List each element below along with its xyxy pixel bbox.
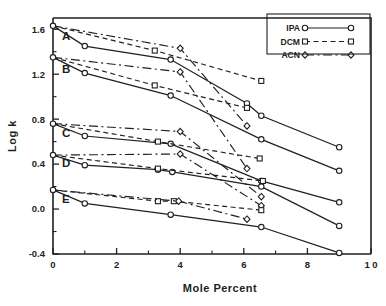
legend-item-dcm: DCM [280, 37, 353, 47]
series-dcm [53, 57, 249, 110]
group-label-d: D [62, 157, 70, 169]
series-line [53, 57, 247, 108]
chart-container: 024681 0 -0.40.00.40.81.21.6 ABCDE IPADC… [0, 0, 386, 306]
legend-label: DCM [280, 37, 300, 47]
circle-data-point [337, 168, 342, 173]
x-tick-label: 0 [50, 259, 55, 270]
y-axis-ticks [53, 29, 59, 254]
x-tick-label: 4 [178, 259, 184, 270]
y-tick-label: -0.4 [29, 248, 46, 259]
circle-data-point [50, 55, 55, 60]
square-data-point [152, 83, 157, 88]
circle-data-point [50, 152, 55, 157]
circle-data-point [168, 57, 173, 62]
group-label-c: C [62, 127, 70, 139]
diamond-data-point [302, 52, 308, 58]
legend-label: IPA [286, 23, 300, 33]
y-tick-label: 0.4 [32, 158, 46, 169]
diamond-data-point [244, 216, 250, 222]
diamond-data-point [258, 193, 264, 199]
group-label-a: A [62, 30, 70, 42]
circle-data-point [259, 113, 264, 118]
circle-data-point [337, 223, 342, 228]
x-tick-label: 6 [241, 259, 246, 270]
y-tick-label: 0.0 [32, 203, 45, 214]
x-tick-label: 2 [114, 259, 119, 270]
curve-group-d [50, 151, 342, 229]
square-data-point [259, 208, 264, 213]
series-line [53, 190, 339, 253]
circle-data-point [337, 200, 342, 205]
legend-label: ACN [281, 50, 300, 60]
y-axis-tick-labels: -0.40.00.40.81.21.6 [29, 24, 46, 260]
circle-data-point [168, 93, 173, 98]
y-tick-label: 0.8 [32, 114, 45, 125]
circle-data-point [337, 145, 342, 150]
square-data-point [155, 139, 160, 144]
series-acn [53, 26, 250, 129]
circle-data-point [50, 121, 55, 126]
circle-data-point [82, 133, 87, 138]
diamond-data-point [244, 123, 250, 129]
circle-data-point [82, 163, 87, 168]
series-ipa [53, 155, 342, 229]
x-axis-ticks [53, 248, 371, 254]
series-line [53, 124, 339, 203]
circle-data-point [259, 184, 264, 189]
circle-data-point [168, 212, 173, 217]
group-label-e: E [62, 193, 70, 205]
square-data-point [260, 178, 265, 183]
curve-group-e [50, 187, 342, 255]
circle-data-point [302, 25, 307, 30]
circle-data-point [348, 25, 353, 30]
legend-item-ipa: IPA [286, 23, 353, 33]
square-data-point [257, 156, 262, 161]
square-data-point [152, 48, 157, 53]
x-tick-label: 8 [305, 259, 310, 270]
square-data-point [259, 78, 264, 83]
curve-group-c [50, 121, 342, 205]
legend-border [267, 14, 370, 54]
y-axis-title: Log k [6, 120, 18, 152]
circle-data-point [82, 70, 87, 75]
circle-data-point [259, 224, 264, 229]
circle-data-point [337, 250, 342, 255]
curve-group-labels: ABCDE [62, 30, 70, 205]
square-data-point [303, 39, 308, 44]
x-axis-title: Mole Percent [183, 282, 257, 294]
group-label-b: B [62, 63, 70, 75]
y-tick-label: 1.6 [32, 24, 45, 35]
circle-data-point [50, 23, 55, 28]
series-line [53, 26, 247, 126]
square-data-point [244, 105, 249, 110]
circle-data-point [50, 187, 55, 192]
square-data-point [155, 166, 160, 171]
circle-data-point [82, 43, 87, 48]
series-ipa [53, 190, 342, 256]
y-tick-label: 1.2 [32, 69, 45, 80]
x-tick-label: 1 0 [364, 259, 377, 270]
circle-data-point [82, 201, 87, 206]
diamond-data-point [177, 151, 183, 157]
legend-item-acn: ACN [281, 50, 354, 60]
log-k-vs-mole-percent-chart: 024681 0 -0.40.00.40.81.21.6 ABCDE IPADC… [0, 0, 386, 306]
diamond-data-point [348, 52, 354, 58]
series-acn [53, 190, 250, 222]
series-line [53, 154, 261, 206]
circle-data-point [259, 137, 264, 142]
plot-frame [53, 18, 371, 254]
square-data-point [349, 39, 354, 44]
curve-group-b [50, 55, 342, 174]
chart-legend: IPADCMACN [267, 14, 370, 60]
x-axis-tick-labels: 024681 0 [50, 259, 377, 270]
